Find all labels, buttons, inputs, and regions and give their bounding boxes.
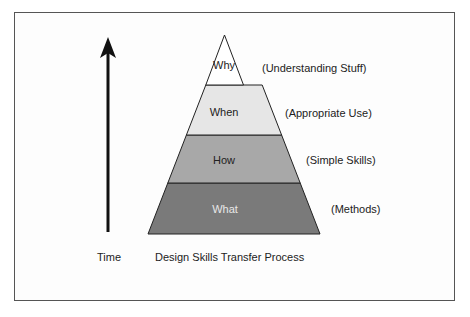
- diagram-title: Design Skills Transfer Process: [155, 252, 304, 263]
- layer-description-how: (Simple Skills): [306, 155, 376, 166]
- layer-name-how: How: [213, 155, 235, 166]
- layer-name-why: Why: [213, 60, 235, 71]
- time-arrow-icon: [100, 37, 116, 232]
- time-axis-label: Time: [97, 252, 121, 263]
- layer-name-what: What: [212, 204, 238, 215]
- layer-description-what: (Methods): [331, 204, 381, 215]
- layer-description-why: (Understanding Stuff): [262, 63, 366, 74]
- layer-name-when: When: [210, 107, 239, 118]
- layer-description-when: (Appropriate Use): [285, 108, 372, 119]
